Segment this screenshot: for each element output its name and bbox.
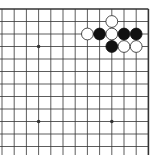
star-point-icon [37, 45, 41, 49]
white-stone-icon[interactable] [118, 41, 130, 53]
black-stone-icon[interactable] [94, 28, 106, 40]
white-stone-icon[interactable] [82, 28, 94, 40]
white-stone-icon[interactable] [106, 28, 118, 40]
go-board[interactable] [0, 0, 153, 155]
white-stone-icon[interactable] [130, 41, 142, 53]
black-stone-icon[interactable] [130, 28, 142, 40]
white-stone-icon[interactable] [106, 16, 118, 28]
black-stone-icon[interactable] [118, 28, 130, 40]
star-point-icon [37, 120, 41, 124]
black-stone-icon[interactable] [106, 41, 118, 53]
star-point-icon [110, 120, 114, 124]
